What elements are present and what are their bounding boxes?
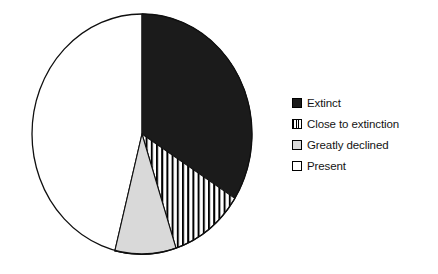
legend-item-label: Extinct [307,97,341,109]
striped-swatch-icon [292,119,302,129]
white-swatch-icon [292,161,302,171]
pie-chart-svg [0,0,286,274]
pie-chart-plot-area [0,0,286,274]
legend-item-label: Present [307,160,346,172]
legend-item-greatly-declined[interactable]: Greatly declined [292,134,438,155]
gray-swatch-icon [292,140,302,150]
legend-item-present[interactable]: Present [292,155,438,176]
legend-item-extinct[interactable]: Extinct [292,92,438,113]
legend-item-label: Close to extinction [307,118,399,130]
chart-legend: Extinct Close to extinction Greatly decl… [292,92,438,176]
solid-black-swatch-icon [292,98,302,108]
legend-item-label: Greatly declined [307,139,389,151]
legend-item-close-to-extinction[interactable]: Close to extinction [292,113,438,134]
pie-chart-figure: Extinct Close to extinction Greatly decl… [0,0,438,274]
